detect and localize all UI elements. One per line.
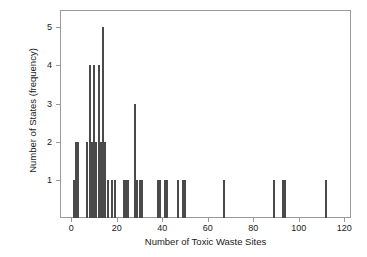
y-axis-title: Number of States (frequency): [27, 26, 38, 196]
y-tick: [56, 104, 60, 105]
x-tick-label: 40: [142, 223, 182, 234]
y-tick: [56, 180, 60, 181]
plot-frame: [60, 10, 351, 218]
toxic-waste-sites-chart: 020406080100120 12345 Number of Toxic Wa…: [0, 0, 367, 257]
y-tick: [56, 142, 60, 143]
x-tick-label: 100: [279, 223, 319, 234]
x-tick-label: 60: [188, 223, 228, 234]
x-tick: [71, 218, 72, 222]
y-tick: [56, 27, 60, 28]
x-tick: [344, 218, 345, 222]
y-tick: [56, 65, 60, 66]
x-tick: [208, 218, 209, 222]
x-tick: [253, 218, 254, 222]
x-tick: [299, 218, 300, 222]
x-tick: [162, 218, 163, 222]
x-tick-label: 20: [97, 223, 137, 234]
x-tick-label: 0: [51, 223, 91, 234]
x-tick-label: 120: [324, 223, 364, 234]
x-tick: [117, 218, 118, 222]
x-axis-title: Number of Toxic Waste Sites: [60, 236, 351, 247]
x-tick-label: 80: [233, 223, 273, 234]
